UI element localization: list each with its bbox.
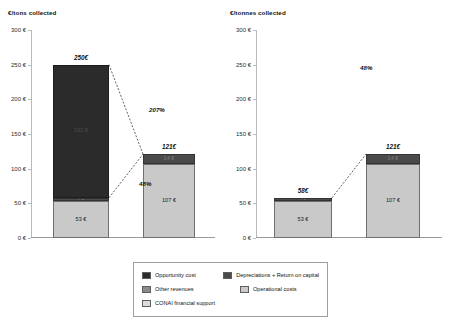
legend-label: Other revenues (155, 286, 194, 292)
bar-segment-depreciations-return-on-capital[interactable]: 14 € (143, 154, 195, 164)
legend-item[interactable]: Depreciations + Return on capital (223, 272, 319, 279)
y-axis-tick-label: 300 € (11, 27, 26, 33)
y-axis-tick-label: 200 € (236, 96, 251, 102)
bar-segment-value: 107 € (386, 198, 400, 204)
y-axis-tick (28, 203, 31, 204)
legend-item[interactable]: Other revenues (142, 286, 240, 293)
y-axis-tick (28, 99, 31, 100)
y-axis-tick (253, 99, 256, 100)
y-axis-line (256, 30, 257, 238)
y-axis-tick (253, 203, 256, 204)
bar-total-label: 121€ (386, 143, 400, 150)
bar-segment-value: 53 € (298, 217, 309, 223)
legend-label: Operational costs (253, 286, 297, 292)
bar-segment-value: 14 € (388, 156, 399, 162)
y-axis-line (31, 30, 32, 238)
stacked-bar[interactable]: 107 €14 € (366, 154, 420, 238)
y-axis-tick-label: 0 € (18, 235, 26, 241)
legend-item[interactable]: Opportunity cost (142, 272, 223, 279)
plot-area-right: 300 €250 €200 €150 €100 €50 €0 €53 €5 €5… (256, 30, 440, 238)
bar-segment-other-revenues[interactable]: 5 € (274, 198, 332, 201)
plot-area-left: 300 €250 €200 €150 €100 €50 €0 €53 €5 €1… (31, 30, 213, 238)
legend-item[interactable]: Operational costs (240, 286, 297, 293)
y-axis-tick (253, 238, 256, 239)
bar-total-label: 250€ (74, 54, 88, 61)
y-axis-tick (28, 134, 31, 135)
bar-segment-operational-costs[interactable]: 107 € (366, 164, 420, 238)
y-axis-tick-label: 150 € (236, 131, 251, 137)
bar-segment-operational-costs[interactable]: 107 € (143, 164, 195, 238)
y-axis-tick-label: 50 € (14, 200, 26, 206)
y-axis-tick (253, 134, 256, 135)
legend-label: CONAI financial support (155, 300, 215, 306)
y-axis-tick-label: 300 € (236, 27, 251, 33)
chart-legend: Opportunity costDepreciations + Return o… (133, 262, 328, 317)
y-axis-tick-label: 100 € (11, 166, 26, 172)
legend-label: Opportunity cost (155, 272, 196, 278)
y-axis-tick-label: 100 € (236, 166, 251, 172)
bar-total-label: 58€ (298, 187, 309, 194)
y-axis-tick (28, 169, 31, 170)
panel-title-left: €/tons collected (8, 9, 56, 16)
bar-segment-value: 53 € (76, 217, 87, 223)
legend-swatch-icon (142, 300, 151, 307)
legend-swatch-icon (142, 286, 151, 293)
y-axis-tick (253, 65, 256, 66)
bar-segment-value: 5 € (77, 198, 85, 201)
chart-panel-left: €/tons collected 300 €250 €200 €150 €100… (0, 0, 226, 262)
legend-item[interactable]: CONAI financial support (142, 300, 240, 307)
bar-segment-conai-financial-support[interactable]: 53 € (274, 201, 332, 238)
bar-segment-value: 14 € (164, 156, 175, 162)
y-axis-tick (28, 65, 31, 66)
y-axis-tick-label: 200 € (11, 96, 26, 102)
y-axis-tick (28, 238, 31, 239)
y-axis-tick-label: 150 € (11, 131, 26, 137)
stacked-bar[interactable]: 53 €5 €192 € (53, 65, 109, 238)
bar-segment-value: 192 € (74, 128, 88, 134)
legend-swatch-icon (240, 286, 249, 293)
chart-page: €/tons collected 300 €250 €200 €150 €100… (0, 0, 452, 333)
bar-segment-opportunity-cost[interactable]: 192 € (53, 65, 109, 198)
legend-swatch-icon (223, 272, 232, 279)
y-axis-tick-label: 50 € (239, 200, 251, 206)
bar-segment-depreciations-return-on-capital[interactable]: 14 € (366, 154, 420, 164)
percentage-annotation: 207% (149, 106, 165, 113)
y-axis-tick-label: 250 € (236, 62, 251, 68)
stacked-bar[interactable]: 53 €5 € (274, 198, 332, 238)
y-axis-tick-label: 250 € (11, 62, 26, 68)
bar-total-label: 121€ (162, 143, 176, 150)
legend-row: CONAI financial support (142, 296, 319, 310)
bar-segment-other-revenues[interactable]: 5 € (53, 198, 109, 201)
chart-panel-right: €/tonnes collected 300 €250 €200 €150 €1… (222, 0, 452, 262)
y-axis-tick-label: 0 € (243, 235, 251, 241)
legend-label: Depreciations + Return on capital (236, 272, 319, 278)
bar-segment-value: 5 € (299, 198, 307, 201)
y-axis-tick (28, 30, 31, 31)
panel-title-right: €/tonnes collected (230, 9, 286, 16)
legend-row: Other revenuesOperational costs (142, 282, 319, 296)
percentage-annotation: 48% (139, 180, 151, 187)
bar-segment-value: 107 € (162, 198, 176, 204)
bar-segment-conai-financial-support[interactable]: 53 € (53, 201, 109, 238)
stacked-bar[interactable]: 107 €14 € (143, 154, 195, 238)
y-axis-tick (253, 169, 256, 170)
legend-swatch-icon (142, 272, 151, 279)
percentage-annotation: 48% (360, 64, 372, 71)
legend-row: Opportunity costDepreciations + Return o… (142, 268, 319, 282)
y-axis-tick (253, 30, 256, 31)
